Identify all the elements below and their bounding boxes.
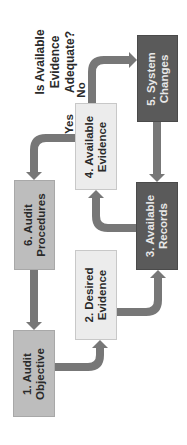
arrow-4-to-6 — [34, 138, 75, 172]
box-5-line-2: Changes — [158, 52, 171, 106]
box-6-audit-procedures: 6. AuditProcedures — [14, 180, 55, 270]
arrow-1-to-2 — [55, 348, 100, 367]
arrowhead-5 — [129, 52, 137, 68]
box-6-line-2: Procedures — [35, 193, 48, 256]
box-4-available-evidence: 4. AvailableEvidence — [75, 103, 117, 190]
box-5-line-1: 5. System — [145, 52, 158, 106]
box-3-available-records: 3. AvailableRecords — [136, 182, 178, 270]
box-1-line-2: Objective — [34, 348, 47, 400]
box-3-line-2: Records — [157, 195, 170, 257]
box-2-line-1: 2. Desired — [83, 268, 96, 323]
arrowhead-3-top — [149, 174, 165, 182]
branch-label-no: No — [75, 78, 89, 102]
question-line-2: Evidence — [48, 17, 63, 107]
box-2-desired-evidence: 2. DesiredEvidence — [75, 250, 117, 340]
arrow-2-to-3 — [117, 278, 158, 312]
box-2-line-2: Evidence — [96, 268, 109, 323]
arrow-3-to-4 — [96, 198, 136, 228]
arrowhead-4-bottom — [88, 190, 104, 198]
question-line-1: Is Available — [33, 17, 48, 107]
box-4-line-1: 4. Available — [83, 115, 96, 177]
box-4-line-2: Evidence — [96, 115, 109, 177]
box-6-line-1: 6. Audit — [22, 193, 35, 256]
arrowhead-1 — [26, 322, 42, 330]
box-1-audit-objective: 1. AuditObjective — [13, 330, 55, 417]
decision-question: Is Available Evidence Adequate? — [33, 17, 81, 107]
box-3-line-1: 3. Available — [144, 195, 157, 257]
arrowhead-3-bottom — [150, 270, 166, 278]
arrowhead-2 — [92, 340, 108, 348]
arrowhead-6 — [26, 172, 42, 180]
box-5-system-changes: 5. SystemChanges — [137, 35, 178, 122]
arrow-4-to-5 — [92, 60, 130, 103]
box-1-line-1: 1. Audit — [21, 348, 34, 400]
